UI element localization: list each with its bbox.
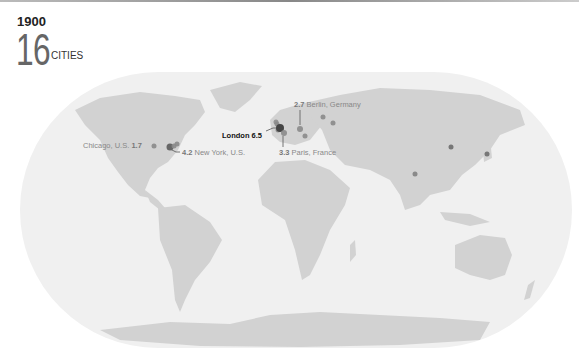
city-count-label: CITIES — [51, 50, 83, 61]
label-chicago-value: 1.7 — [131, 141, 141, 150]
label-berlin: 2.7 Berlin, Germany — [294, 100, 361, 109]
label-paris-name: Paris, France — [292, 148, 337, 157]
label-chicago: Chicago, U.S. 1.7 — [83, 141, 142, 150]
world-map — [0, 0, 579, 359]
label-london-value: 6.5 — [252, 131, 262, 140]
label-new-york-value: 4.2 — [182, 148, 192, 157]
label-new-york-name: New York, U.S. — [195, 148, 245, 157]
label-paris-value: 3.3 — [279, 148, 289, 157]
label-london: London 6.5 — [222, 131, 262, 140]
label-london-name: London — [222, 131, 250, 140]
label-paris: 3.3 Paris, France — [279, 148, 336, 157]
label-new-york: 4.2 New York, U.S. — [182, 148, 245, 157]
label-chicago-name: Chicago, U.S. — [83, 141, 129, 150]
label-berlin-name: Berlin, Germany — [307, 100, 361, 109]
city-count: 16 — [16, 27, 50, 73]
label-berlin-value: 2.7 — [294, 100, 304, 109]
